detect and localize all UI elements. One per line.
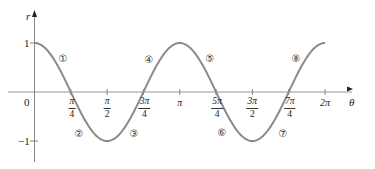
y-axis-arrow-icon xyxy=(32,10,37,17)
segment-number-label: ① xyxy=(59,53,68,64)
tick-numerator: 7π xyxy=(284,97,296,109)
segment-number-label: ⑧ xyxy=(292,53,301,64)
x-tick-label: π xyxy=(177,97,182,108)
segment-number-label: ⑥ xyxy=(218,127,227,138)
tick-denominator: 4 xyxy=(287,109,292,120)
y-tick-label-neg1: −1 xyxy=(18,136,30,147)
y-tick-label-1: 1 xyxy=(24,38,30,49)
segment-number-label: ⑤ xyxy=(206,53,215,64)
x-axis-label: θ xyxy=(349,96,354,108)
tick-numerator: π xyxy=(68,97,75,109)
segment-number-label: ④ xyxy=(145,54,154,65)
tick-numerator: π xyxy=(104,97,111,109)
y-axis-label: r xyxy=(26,10,30,22)
segment-number-label: ⑦ xyxy=(279,128,288,139)
tick-numerator: 3π xyxy=(139,97,151,109)
x-axis-arrow-icon xyxy=(347,87,353,92)
x-tick-label: 3π4 xyxy=(139,97,151,119)
segment-number-label: ③ xyxy=(130,128,139,139)
origin-label: 0 xyxy=(24,97,30,108)
tick-denominator: 4 xyxy=(142,109,147,120)
x-tick-label: π4 xyxy=(68,97,75,119)
segment-number-label: ② xyxy=(75,128,84,139)
x-tick-label: 2π xyxy=(320,97,330,108)
tick-denominator: 2 xyxy=(250,109,255,120)
tick-denominator: 4 xyxy=(69,109,74,120)
x-tick-label: 7π4 xyxy=(284,97,296,119)
x-tick-label: π2 xyxy=(104,97,111,119)
polar-rectangular-graph xyxy=(0,0,375,169)
tick-numerator: 5π xyxy=(211,97,223,109)
x-tick-label: 3π2 xyxy=(247,97,259,119)
x-tick-label: 5π4 xyxy=(211,97,223,119)
tick-numerator: 3π xyxy=(247,97,259,109)
tick-denominator: 2 xyxy=(105,109,110,120)
tick-denominator: 4 xyxy=(215,109,220,120)
